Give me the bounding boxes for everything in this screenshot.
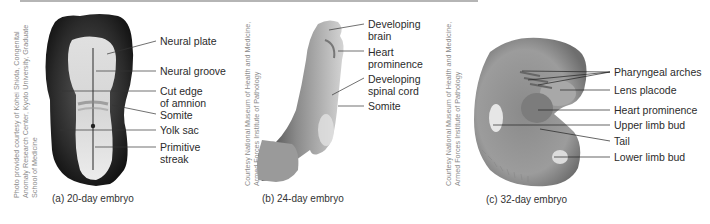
caption-c: (c) 32-day embryo [486, 194, 567, 205]
label-pharyngeal-arches: Pharyngeal arches [614, 66, 702, 78]
label-lens-placode: Lens placode [614, 84, 676, 96]
label-tail: Tail [614, 135, 630, 147]
embryo-32-day-image [0, 0, 710, 224]
label-lower-limb-bud: Lower limb bud [614, 151, 685, 163]
label-heart-prominence-c: Heart prominence [614, 104, 697, 116]
label-upper-limb-bud: Upper limb bud [614, 119, 685, 131]
